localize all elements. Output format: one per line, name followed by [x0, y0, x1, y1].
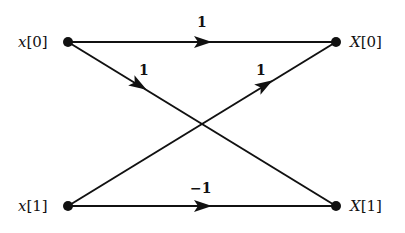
label-X0: X[0]: [349, 33, 382, 51]
edge-label-x0-X1: 1: [139, 62, 149, 78]
label-X1: X[1]: [349, 197, 382, 215]
node-x1: [63, 201, 73, 211]
label-x0: x[0]: [18, 33, 48, 51]
butterfly-diagram: x[0] x[1] X[0] X[1] 1 1 1 −1: [0, 0, 405, 233]
label-x1: x[1]: [18, 197, 48, 215]
node-X1: [331, 201, 341, 211]
edge-label-x1-X1: −1: [190, 180, 211, 196]
edge-label-x1-X0: 1: [256, 62, 266, 78]
arrow-icon: [254, 75, 276, 95]
edge-label-x0-X0: 1: [197, 14, 207, 30]
node-X0: [331, 37, 341, 47]
arrow-icon: [128, 75, 150, 95]
node-x0: [63, 37, 73, 47]
